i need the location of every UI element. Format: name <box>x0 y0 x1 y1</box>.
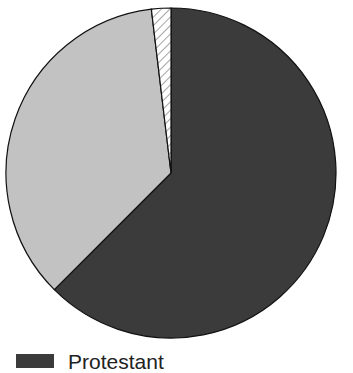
pie-slices <box>6 8 336 338</box>
legend-swatch <box>16 354 54 368</box>
legend-item-protestant: Protestant <box>16 354 164 373</box>
legend-label: Protestant <box>68 350 164 373</box>
pie-chart <box>0 0 353 340</box>
